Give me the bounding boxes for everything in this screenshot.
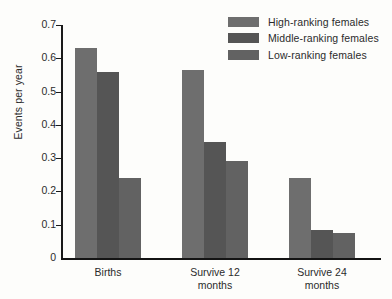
legend-swatch bbox=[228, 17, 259, 27]
bar bbox=[119, 178, 141, 258]
legend-label: High-ranking females bbox=[268, 16, 369, 28]
y-axis-tick-label: 0.7 bbox=[30, 19, 56, 30]
y-axis-tick-labels: 00.10.20.30.40.50.60.7 bbox=[22, 0, 56, 299]
y-axis-tick-label: 0.3 bbox=[30, 152, 56, 163]
y-axis-tick-label: 0.4 bbox=[30, 119, 56, 130]
y-axis-tick-label: 0 bbox=[30, 252, 56, 263]
legend: High-ranking femalesMiddle-ranking femal… bbox=[228, 14, 379, 64]
legend-swatch bbox=[228, 50, 259, 60]
bar bbox=[333, 233, 355, 258]
legend-swatch bbox=[228, 33, 259, 43]
bar bbox=[226, 161, 248, 258]
x-axis-category-label: Survive 12months bbox=[155, 266, 275, 291]
bar bbox=[311, 230, 333, 258]
y-axis-tick-label: 0.1 bbox=[30, 219, 56, 230]
y-axis-tick-label: 0.6 bbox=[30, 52, 56, 63]
legend-label: Low-ranking females bbox=[268, 49, 367, 61]
bar bbox=[75, 48, 97, 258]
x-axis-category-label: Survive 24months bbox=[262, 266, 382, 291]
bar bbox=[289, 178, 311, 258]
bar-group bbox=[75, 25, 141, 258]
bar bbox=[182, 70, 204, 258]
y-axis-tick-label: 0.5 bbox=[30, 86, 56, 97]
legend-item: Middle-ranking females bbox=[228, 31, 379, 46]
legend-item: High-ranking females bbox=[228, 14, 379, 29]
bar bbox=[204, 142, 226, 259]
legend-label: Middle-ranking females bbox=[268, 32, 379, 44]
bar-chart: Events per year 00.10.20.30.40.50.60.7 B… bbox=[0, 0, 392, 299]
y-axis-tick-label: 0.2 bbox=[30, 185, 56, 196]
legend-item: Low-ranking females bbox=[228, 47, 379, 62]
x-axis-category-label: Births bbox=[48, 266, 168, 279]
bar bbox=[97, 72, 119, 258]
